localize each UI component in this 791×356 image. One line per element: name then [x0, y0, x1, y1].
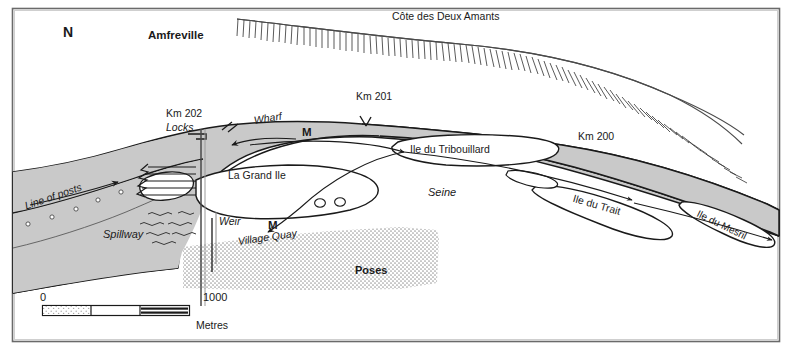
label-locks: Locks: [166, 121, 193, 133]
settlement-area-poses: [183, 227, 439, 290]
river-upstream-arm: [13, 133, 205, 293]
label-poses: Poses: [355, 264, 387, 276]
label-km-202: Km 202: [166, 107, 202, 119]
scale-bar: [43, 306, 190, 316]
label-ile-du-tribouillard: Ile du Tribouillard: [410, 143, 490, 155]
label-cote-des-deux-amants: Côte des Deux Amants: [392, 10, 499, 22]
label-km-201: Km 201: [356, 90, 392, 102]
marker-m-upper: M: [302, 126, 312, 138]
label-seine: Seine: [428, 186, 456, 198]
map-figure: N Amfreville Côte des Deux Amants Km 202…: [0, 0, 791, 356]
scale-bar-min-label: 0: [40, 291, 46, 303]
map-canvas: [0, 0, 791, 356]
label-weir: Weir: [219, 215, 240, 227]
compass-north-label: N: [63, 24, 73, 40]
scale-bar-max-label: 1000: [203, 291, 227, 303]
scale-bar-units-label: Metres: [196, 319, 228, 331]
label-amfreville: Amfreville: [148, 29, 204, 41]
label-spillway: Spillway: [103, 228, 143, 240]
label-km-200: Km 200: [578, 130, 614, 142]
label-la-grand-ile: La Grand Ile: [228, 169, 286, 181]
